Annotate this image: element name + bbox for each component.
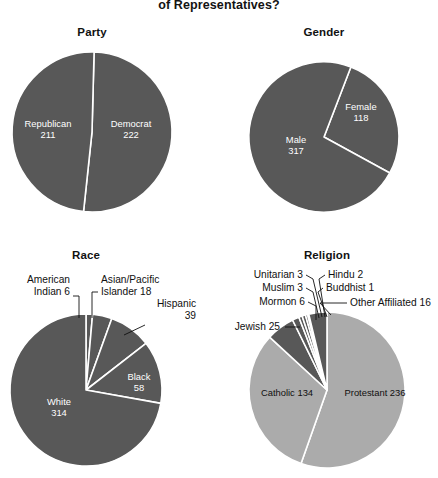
pie-race: AmericanIndian 6Asian/PacificIslander 18… [10,274,196,466]
slice-label-asian-pacific-islander-line1: Asian/Pacific [101,274,159,285]
slice-label-asian-pacific-islander-line2: Islander 18 [101,286,152,297]
slice-label-democrat-line2: 222 [123,129,139,140]
slice-label-jewish: Jewish 25 [235,321,281,332]
pie-religion: Protestant 236Catholic 134Jewish 25Mormo… [235,269,431,468]
chart-title-gender: Gender [249,26,399,39]
slice-label-mormon: Mormon 6 [259,296,305,307]
slice-label-hispanic-line2: 39 [185,310,197,321]
slice-label-white-line1: White [47,396,71,407]
slice-label-black-line2: 58 [134,382,144,393]
pie-chart-figure: of Representatives? Democrat222Republica… [0,0,438,478]
slice-label-white-line2: 314 [51,407,67,418]
figure-title: of Representatives? [0,0,438,12]
slice-label-female-line1: Female [345,101,376,112]
slice-label-american-indian-line1: American [27,274,70,285]
slice-label-unitarian: Unitarian 3 [254,269,304,280]
slice-label-hispanic-line1: Hispanic [157,298,196,309]
slice-label-female-line2: 118 [354,112,369,123]
slice-label-black-line1: Black [128,371,151,382]
slice-label-republican-line1: Republican [25,118,72,129]
slice-label-male-line1: Male [286,134,306,145]
slice-label-other-affiliated: Other Affiliated 16 [350,297,431,308]
figure-canvas: Democrat222Republican211Female118Male317… [0,0,438,478]
slice-label-buddhist: Buddhist 1 [326,282,374,293]
slice-label-hindu: Hindu 2 [328,269,363,280]
slice-label-republican-line2: 211 [41,129,56,140]
chart-title-race: Race [10,249,162,262]
chart-title-religion: Religion [249,249,405,262]
pie-party: Democrat222Republican211 [12,52,172,212]
slice-label-male-line2: 317 [288,145,304,156]
slice-label-protestant: Protestant 236 [345,387,406,398]
pie-gender: Female118Male317 [249,62,399,212]
slice-label-democrat-line1: Democrat [111,118,152,129]
chart-title-party: Party [12,26,172,39]
slice-label-muslim: Muslim 3 [262,282,303,293]
slice-label-catholic: Catholic 134 [261,387,313,398]
slice-label-american-indian-line2: Indian 6 [34,286,71,297]
